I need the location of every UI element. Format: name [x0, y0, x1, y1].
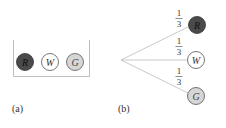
- panel-a: R W G (a): [12, 40, 90, 115]
- fraction-w: 1 3: [176, 36, 183, 57]
- svg-text:1: 1: [177, 36, 182, 46]
- svg-text:G: G: [192, 91, 199, 102]
- svg-text:3: 3: [177, 47, 182, 57]
- ball-label: R: [21, 57, 28, 68]
- svg-text:1: 1: [177, 8, 182, 18]
- svg-text:3: 3: [177, 77, 182, 87]
- svg-text:3: 3: [177, 19, 182, 29]
- svg-text:R: R: [193, 20, 200, 31]
- outcome-white: W: [188, 52, 205, 69]
- caption-b: (b): [118, 103, 130, 115]
- ball-label: G: [71, 57, 78, 68]
- panel-b: 1 3 1 3 1 3 R W G (b): [118, 8, 206, 115]
- svg-text:1: 1: [177, 66, 182, 76]
- fraction-r: 1 3: [176, 8, 183, 29]
- urn-ball-white: W: [42, 54, 59, 71]
- urn-ball-green: G: [67, 54, 84, 71]
- fraction-g: 1 3: [176, 66, 183, 87]
- urn-ball-red: R: [17, 54, 34, 71]
- outcome-green: G: [188, 88, 205, 105]
- caption-a: (a): [12, 103, 23, 115]
- probability-diagram: R W G (a) 1 3 1 3 1 3: [0, 0, 226, 128]
- outcome-red: R: [189, 17, 206, 34]
